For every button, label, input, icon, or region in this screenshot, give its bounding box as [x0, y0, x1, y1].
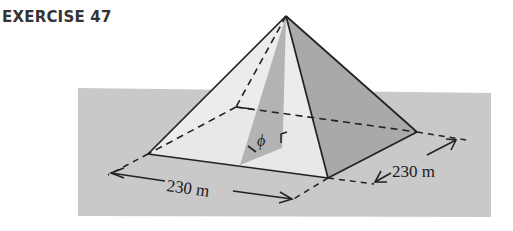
pyramid-figure: ϕ 230 m 230 m [0, 0, 513, 231]
angle-phi-label: ϕ [257, 132, 265, 150]
base-width-label: 230 m [392, 162, 435, 181]
